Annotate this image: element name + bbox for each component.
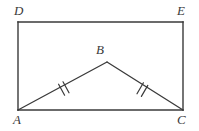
tick-mark-BC-1	[137, 83, 143, 94]
tick-mark-BC-2	[141, 85, 147, 96]
vertex-label-D: D	[14, 4, 23, 17]
triangle-ABC	[18, 62, 183, 110]
segment-BC	[107, 62, 183, 110]
segment-AB	[18, 62, 107, 110]
vertex-label-E: E	[177, 4, 185, 17]
geometry-canvas	[0, 0, 199, 131]
vertex-label-A: A	[13, 113, 21, 126]
vertex-label-C: C	[177, 113, 186, 126]
geometry-figure: D E B A C	[0, 0, 199, 131]
tick-marks-segment-BC	[137, 83, 148, 97]
vertex-label-B: B	[96, 43, 104, 56]
